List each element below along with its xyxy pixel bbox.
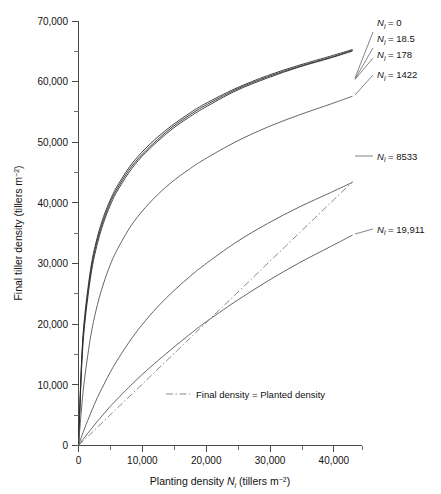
y-axis-ticks [72,21,79,446]
series-label-1: Ni = 18.5 [377,33,415,46]
svg-text:Planting density Ni (tillers m: Planting density Ni (tillers m−2) [150,475,290,489]
series-label-2: Ni = 178 [377,49,412,62]
leader-line-series-1 [355,48,373,79]
curve-series-1 [79,50,353,445]
x-axis-title-exp: −2 [279,476,287,483]
series-label-5: Ni = 19,911 [377,224,425,237]
y-ticklabel-30000: 30,000 [37,258,68,269]
x-ticklabel-20000: 20,000 [191,455,222,466]
x-axis-title-main: Planting density [150,475,225,487]
x-ticklabel-40000: 40,000 [319,455,350,466]
y-ticklabel-40000: 40,000 [37,198,68,209]
curve-series-0 [79,50,353,446]
reference-line-1-1 [79,182,353,446]
y-ticklabel-70000: 70,000 [37,16,68,27]
leader-line-series-3 [355,75,373,95]
series-label-3: Ni = 1422 [377,69,417,82]
series-label-0: Ni = 0 [377,17,402,30]
chart-svg: 0 10,000 20,000 30,000 40,000 50,000 60,… [0,0,441,494]
leader-line-series-5 [355,229,373,234]
y-ticklabel-20000: 20,000 [37,319,68,330]
y-axis-title: Final tiller density (tillers m−2) [12,165,24,300]
reference-line-group [79,182,353,446]
x-axis-tick-labels: 0 10,000 20,000 30,000 40,000 [76,455,350,466]
y-ticklabel-0: 0 [62,440,68,451]
x-axis-title: Planting density Ni (tillers m−2) [150,475,290,489]
reference-line-label: Final density = Planted density [196,389,325,400]
series-legend: Ni = 0 Ni = 18.5 Ni = 178 Ni = 1422 Ni =… [355,17,425,236]
x-ticklabel-0: 0 [76,455,82,466]
series-label-4: Ni = 8533 [377,151,417,164]
y-ticklabel-50000: 50,000 [37,137,68,148]
chart-figure: 0 10,000 20,000 30,000 40,000 50,000 60,… [0,0,441,494]
x-axis-title-units: (tillers m [239,475,279,487]
x-axis-title-close: ) [287,475,291,487]
leader-line-series-0 [355,32,373,78]
reference-line-legend: Final density = Planted density [166,389,325,400]
leader-line-series-2 [355,58,373,80]
y-ticklabel-10000: 10,000 [37,380,68,391]
curve-group [79,50,353,446]
curve-series-5 [79,235,353,445]
axes [79,21,363,446]
y-ticklabel-60000: 60,000 [37,76,68,87]
y-axis-title-exp: −2 [13,169,20,177]
svg-text:Final tiller density (tillers: Final tiller density (tillers m−2) [12,165,24,300]
x-ticklabel-30000: 30,000 [255,455,286,466]
x-ticklabel-10000: 10,000 [127,455,158,466]
y-axis-title-main: Final tiller density (tillers m [12,177,24,301]
x-axis-ticks [79,446,363,453]
y-axis-title-close: ) [12,165,24,169]
y-axis-tick-labels: 0 10,000 20,000 30,000 40,000 50,000 60,… [37,16,68,452]
